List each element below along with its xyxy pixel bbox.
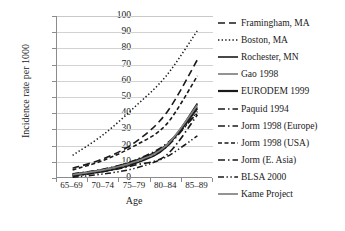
legend-item[interactable]: Jorm 1998 (Europe) <box>218 117 345 134</box>
x-tick-mark <box>181 178 182 182</box>
legend-item[interactable]: Gao 1998 <box>218 66 345 83</box>
legend-label: Jorm 1998 (Europe) <box>241 121 318 131</box>
legend-swatch <box>218 172 238 182</box>
legend-swatch <box>218 138 238 148</box>
series-line <box>73 76 198 170</box>
legend-label: Kame Project <box>241 189 293 199</box>
y-axis-title: Incidence rate per 1000 <box>21 11 31 171</box>
legend-item[interactable]: BLSA 2000 <box>218 169 345 186</box>
legend-label: BLSA 2000 <box>241 172 286 182</box>
legend-item[interactable]: Jorm 1998 (USA) <box>218 134 345 151</box>
legend-swatch <box>218 155 238 165</box>
legend-label: Gao 1998 <box>241 69 278 79</box>
legend-swatch <box>218 86 238 96</box>
legend-label: Jorm 1998 (USA) <box>241 138 309 148</box>
legend: Framingham, MABoston, MARochester, MNGao… <box>218 14 345 203</box>
plot-area <box>56 16 212 178</box>
legend-swatch <box>218 189 238 199</box>
legend-item[interactable]: Rochester, MN <box>218 48 345 65</box>
x-axis-title: Age <box>56 196 212 206</box>
legend-swatch <box>218 69 238 79</box>
series-line <box>73 60 198 169</box>
legend-label: Rochester, MN <box>241 52 299 62</box>
legend-item[interactable]: EURODEM 1999 <box>218 83 345 100</box>
series-lines <box>57 16 213 178</box>
legend-swatch <box>218 104 238 114</box>
legend-label: Boston, MA <box>241 35 288 45</box>
legend-item[interactable]: Boston, MA <box>218 31 345 48</box>
legend-swatch <box>218 18 238 28</box>
legend-label: Paquid 1994 <box>241 104 289 114</box>
legend-item[interactable]: Paquid 1994 <box>218 100 345 117</box>
legend-item[interactable]: Jorm (E. Asia) <box>218 152 345 169</box>
legend-swatch <box>218 35 238 45</box>
legend-swatch <box>218 121 238 131</box>
x-tick-mark <box>56 178 57 182</box>
legend-label: Framingham, MA <box>241 18 310 28</box>
legend-item[interactable]: Kame Project <box>218 186 345 203</box>
legend-label: EURODEM 1999 <box>241 86 309 96</box>
x-tick-mark <box>118 178 119 182</box>
legend-label: Jorm (E. Asia) <box>241 155 296 165</box>
x-tick-label: 85–89 <box>173 181 219 190</box>
x-tick-mark <box>212 178 213 182</box>
incidence-rate-chart: Incidence rate per 1000 0102030405060708… <box>0 0 345 231</box>
x-tick-mark <box>87 178 88 182</box>
legend-swatch <box>218 52 238 62</box>
x-tick-mark <box>150 178 151 182</box>
legend-item[interactable]: Framingham, MA <box>218 14 345 31</box>
